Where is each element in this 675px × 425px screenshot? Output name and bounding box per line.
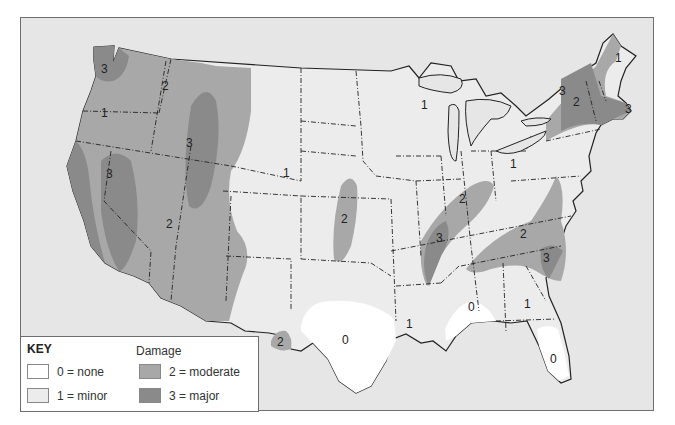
region-label-fl: 0 (550, 353, 557, 365)
region-label-nv: 3 (106, 168, 113, 180)
legend-label-major: 3 = major (169, 389, 219, 403)
swatch-minor (27, 388, 49, 403)
region-label-tx-w: 2 (277, 336, 284, 348)
legend-label-none: 0 = none (57, 365, 104, 379)
region-label-co-ne: 1 (283, 167, 290, 179)
legend-label-moderate: 2 = moderate (169, 365, 240, 379)
region-label-in: 2 (459, 193, 466, 205)
legend-item-minor: 1 = minor (27, 388, 107, 403)
swatch-none (27, 364, 49, 379)
region-label-mt-wy: 3 (186, 137, 193, 149)
region-label-va: 2 (520, 228, 527, 240)
legend-item-major: 3 = major (139, 388, 219, 403)
region-label-tn: 3 (436, 232, 443, 244)
region-label-tx: 0 (342, 334, 349, 346)
region-label-ny-w: 3 (559, 85, 566, 97)
region-label-me: 1 (615, 52, 622, 64)
region-label-or: 1 (101, 107, 108, 119)
region-label-az: 2 (166, 218, 173, 230)
region-label-ny: 2 (573, 96, 580, 108)
region-label-ms-al: 0 (468, 301, 475, 313)
region-label-sc: 3 (543, 252, 550, 264)
swatch-moderate (139, 364, 161, 379)
region-label-id: 2 (162, 80, 169, 92)
region-label-wa: 3 (101, 63, 108, 75)
legend-heading: Damage (136, 344, 181, 358)
legend-item-none: 0 = none (27, 364, 104, 379)
legend-label-minor: 1 = minor (57, 389, 107, 403)
legend-item-moderate: 2 = moderate (139, 364, 240, 379)
legend: KEY Damage 0 = none 1 = minor 2 = modera… (20, 336, 259, 412)
region-label-la: 1 (406, 318, 413, 330)
region-label-ga: 1 (524, 298, 531, 310)
region-label-ks: 2 (341, 213, 348, 225)
region-label-ma: 3 (625, 103, 632, 115)
swatch-major (139, 388, 161, 403)
legend-key-label: KEY (27, 342, 52, 356)
region-label-wi: 1 (421, 99, 428, 111)
region-label-oh: 1 (510, 158, 517, 170)
